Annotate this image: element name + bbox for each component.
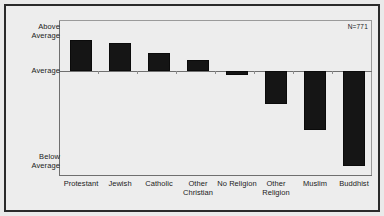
axis-tick [176, 71, 177, 74]
bar-no-religion[interactable] [226, 71, 248, 75]
bar-catholic[interactable] [148, 53, 170, 71]
bar-other-religion[interactable] [265, 71, 287, 104]
bar-muslim[interactable] [304, 71, 326, 130]
axis-tick [293, 71, 294, 74]
x-axis-label-buddhist: Buddhist [324, 179, 384, 188]
axis-tick [98, 71, 99, 74]
plot-top-border [59, 20, 372, 21]
bar-protestant[interactable] [70, 40, 92, 71]
y-axis-label-below-average: Below Average [32, 152, 61, 170]
axis-tick [137, 71, 138, 74]
axis-tick [254, 71, 255, 74]
figure: Above Average Average Below Average Prot… [0, 0, 384, 216]
bar-jewish[interactable] [109, 43, 131, 71]
sample-size-annotation: N=771 [348, 23, 368, 30]
y-axis-label-above-average: Above Average [32, 22, 61, 40]
x-axis-line [59, 175, 372, 176]
y-axis-label-average: Average [32, 66, 61, 75]
plot-right-border [371, 20, 372, 176]
bar-other-christian[interactable] [187, 60, 209, 71]
bar-buddhist[interactable] [343, 71, 365, 166]
axis-tick [215, 71, 216, 74]
axis-tick [332, 71, 333, 74]
